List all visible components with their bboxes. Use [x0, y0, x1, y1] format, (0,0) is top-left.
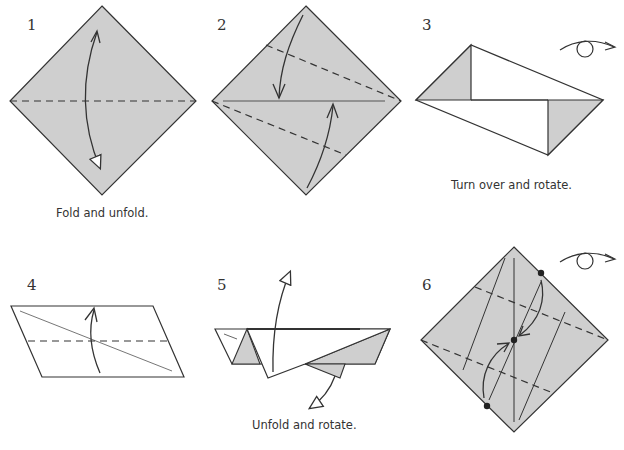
- reference-dot-top: [538, 270, 544, 276]
- step-3-caption: Turn over and rotate.: [451, 178, 572, 192]
- gray-flap-left: [416, 45, 471, 100]
- step-2-number: 2: [217, 16, 227, 34]
- step-5-number: 5: [217, 276, 227, 294]
- step-6-number: 6: [422, 276, 432, 294]
- step-1-number: 1: [27, 16, 37, 34]
- step-5-caption: Unfold and rotate.: [252, 418, 357, 432]
- step-6-figure: [421, 247, 615, 432]
- gray-flap-right: [548, 100, 603, 155]
- gray-flap-under: [305, 364, 345, 378]
- step-3-number: 3: [422, 16, 432, 34]
- step-3-figure: [416, 41, 615, 155]
- unfold-arrow-down: [310, 376, 335, 408]
- step-2-figure: [212, 6, 401, 195]
- step-4-number: 4: [27, 276, 37, 294]
- step-4-figure: [11, 306, 184, 377]
- reference-dot-bottom: [484, 403, 490, 409]
- origami-diagram: 1 2 3 4 5 6 Fold and unfold. Turn over a…: [0, 0, 624, 450]
- step-1-caption: Fold and unfold.: [56, 206, 149, 220]
- turn-over-icon: [560, 41, 615, 57]
- step-1-figure: [10, 6, 196, 195]
- step-5-figure: [215, 272, 390, 408]
- turn-over-icon: [560, 253, 615, 269]
- reference-dot-center: [511, 337, 517, 343]
